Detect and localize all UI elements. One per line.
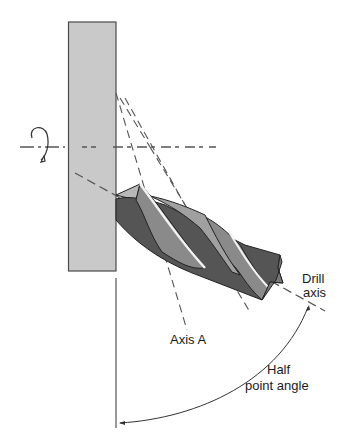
drill-axis-label-2: axis: [303, 285, 327, 300]
rotation-arrow-icon: [31, 128, 48, 162]
arc-arrowhead-top: [306, 305, 310, 311]
drill-point-diagram: Drill axis Axis A Half point angle: [0, 0, 345, 448]
drill-bit: [116, 184, 283, 300]
axis-a-label: Axis A: [170, 332, 206, 347]
half-angle-label-2: point angle: [245, 378, 309, 393]
arc-arrowhead-left: [119, 421, 125, 425]
half-angle-label: Half: [267, 362, 291, 377]
drill-axis-label: Drill: [302, 271, 324, 286]
